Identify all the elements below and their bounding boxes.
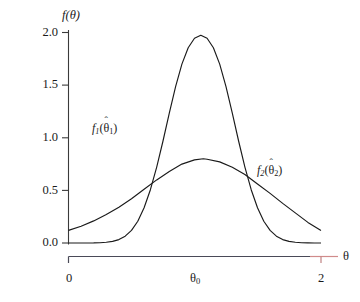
chart-figure: 2.0 1.5 1.0 0.5 0.0 f(θ) 0 θ0 2 θ f1(ˆθ1…: [0, 0, 360, 302]
theta-subscript: 0: [196, 276, 200, 286]
y-axis-ticks: [62, 33, 69, 244]
curve-f2: [69, 159, 322, 231]
f2-hat: ˆ: [270, 158, 273, 168]
f2-arg: ˆθ: [268, 164, 274, 176]
f1-close-paren: ): [113, 121, 117, 135]
curve-label-f1: f1(ˆθ1): [92, 122, 117, 136]
y-tick-label-0-0: 0.0: [26, 236, 58, 249]
plot-area: [0, 0, 360, 302]
y-tick-label-2-0: 2.0: [26, 26, 58, 39]
f1-arg: ˆθ: [103, 122, 109, 134]
x-tick-label-2: 2: [308, 272, 334, 285]
y-tick-label-1-0: 1.0: [26, 131, 58, 144]
x-tick-label-0: 0: [56, 272, 82, 285]
y-axis-title: f(θ): [62, 9, 80, 22]
curve-f1: [69, 35, 322, 243]
curve-label-f2: f2(ˆθ2): [257, 164, 282, 178]
y-axis-title-text: f(θ): [62, 8, 80, 22]
x-tick-label-theta0: θ0: [182, 272, 208, 286]
x-axis-ticks: [69, 257, 322, 264]
f1-hat: ˆ: [105, 116, 108, 126]
f2-close-paren: ): [278, 163, 282, 177]
x-axis-title: θ: [343, 250, 349, 263]
y-tick-label-1-5: 1.5: [26, 78, 58, 91]
y-tick-label-0-5: 0.5: [26, 184, 58, 197]
